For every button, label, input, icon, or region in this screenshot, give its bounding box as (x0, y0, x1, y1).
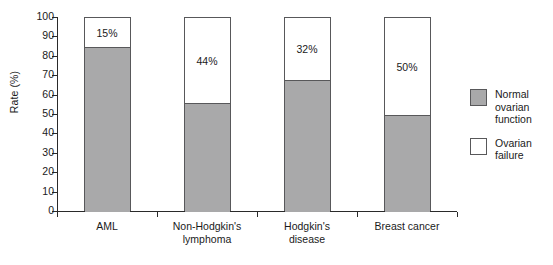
bar-group: 50% (384, 17, 431, 211)
y-axis-title: Rate (%) (8, 52, 20, 132)
y-axis-tick-label: 40 (42, 126, 54, 139)
y-axis-tick: 30 (57, 153, 58, 154)
y-axis-tick: 80 (57, 56, 58, 57)
bar-segment-ovarian-failure: 50% (385, 18, 430, 115)
y-axis-tick-label: 20 (42, 165, 54, 178)
y-axis-tick: 70 (57, 75, 58, 76)
bar-segment-value-label: 32% (296, 43, 317, 55)
x-axis-tick-mark (257, 212, 258, 217)
bar-segment-ovarian-failure: 15% (85, 18, 130, 47)
bar-segment-value-label: 50% (396, 61, 417, 73)
bar-segment-value-label: 15% (96, 27, 117, 39)
y-axis-tick-label: 70 (42, 68, 54, 81)
bar-segment-value-label: 44% (196, 55, 217, 67)
x-axis-tick-mark (57, 212, 58, 217)
bar-segment-normal-ovarian-function (85, 47, 130, 212)
legend-item: Normal ovarian function (470, 88, 553, 126)
legend-swatch (470, 138, 487, 155)
stacked-bar-chart-figure: Rate (%) 1009080706050403020100 15%44%32… (0, 0, 553, 265)
y-axis-tick-label: 0 (48, 204, 54, 217)
x-axis-tick-mark (457, 212, 458, 217)
bar-segment-normal-ovarian-function (385, 115, 430, 212)
y-axis-tick-label: 90 (42, 29, 54, 42)
plot-area: 1009080706050403020100 15%44%32%50% AMLN… (57, 17, 457, 212)
y-axis-tick: 40 (57, 133, 58, 134)
legend-label: Normal ovarian function (495, 88, 553, 126)
y-axis-tick-label: 100 (36, 10, 54, 23)
y-axis-tick-label: 80 (42, 49, 54, 62)
legend-item: Ovarian failure (470, 137, 553, 162)
y-axis-tick-label: 50 (42, 107, 54, 120)
stacked-bar: 50% (384, 17, 431, 211)
y-axis-tick: 60 (57, 95, 58, 96)
y-axis-tick-label: 60 (42, 88, 54, 101)
bar-group: 32% (284, 17, 331, 211)
y-axis-tick: 100 (57, 17, 58, 18)
y-axis-tick: 20 (57, 172, 58, 173)
legend-label: Ovarian failure (495, 137, 553, 162)
legend-swatch (470, 89, 487, 106)
y-axis-tick: 50 (57, 114, 58, 115)
stacked-bar: 32% (284, 17, 331, 211)
bar-segment-normal-ovarian-function (285, 80, 330, 212)
stacked-bar: 44% (184, 17, 231, 211)
y-axis-tick-label: 30 (42, 146, 54, 159)
bar-group: 44% (184, 17, 231, 211)
chart-legend: Normal ovarian functionOvarian failure (470, 88, 553, 173)
x-axis-category-label: Breast cancer (347, 220, 467, 233)
bar-segment-ovarian-failure: 32% (285, 18, 330, 80)
bar-segment-ovarian-failure: 44% (185, 18, 230, 103)
bar-group: 15% (84, 17, 131, 211)
y-axis-tick: 10 (57, 192, 58, 193)
x-axis-tick-mark (157, 212, 158, 217)
stacked-bar: 15% (84, 17, 131, 211)
y-axis-tick-label: 10 (42, 185, 54, 198)
x-axis-tick-mark (357, 212, 358, 217)
bar-segment-normal-ovarian-function (185, 103, 230, 212)
y-axis-tick: 90 (57, 36, 58, 37)
